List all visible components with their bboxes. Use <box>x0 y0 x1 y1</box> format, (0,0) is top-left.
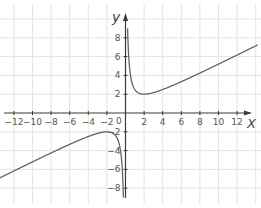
x-tick-label: −6 <box>63 117 77 127</box>
x-tick-label: 4 <box>160 117 166 127</box>
x-tick-label: 6 <box>178 117 184 127</box>
y-tick-label: −4 <box>107 146 121 156</box>
x-axis-label: X <box>246 116 257 131</box>
origin-label: 0 <box>116 116 122 126</box>
y-axis-label: y <box>111 9 121 25</box>
x-tick-label: −12 <box>4 117 23 127</box>
x-tick-label: 10 <box>213 117 225 127</box>
x-tick-label: −4 <box>82 117 96 127</box>
y-tick-label: 6 <box>115 52 121 62</box>
x-tick-label: 12 <box>231 117 242 127</box>
y-tick-label: −8 <box>107 183 121 193</box>
x-tick-label: 8 <box>197 117 203 127</box>
grid-lines <box>0 4 261 204</box>
y-tick-label: 4 <box>115 70 121 80</box>
y-tick-label: −6 <box>107 164 121 174</box>
y-tick-label: 2 <box>115 89 121 99</box>
y-axis-arrow-icon <box>123 13 128 21</box>
x-tick-label: −10 <box>23 117 42 127</box>
x-tick-label: −2 <box>100 117 113 127</box>
x-tick-label: −8 <box>44 117 58 127</box>
function-graph: −12−10−8−6−4−2246810128642−2−4−6−8 X y 0 <box>0 0 261 208</box>
y-tick-label: 8 <box>115 33 121 43</box>
x-axis-arrow-icon <box>244 111 252 116</box>
x-tick-label: 2 <box>141 117 147 127</box>
